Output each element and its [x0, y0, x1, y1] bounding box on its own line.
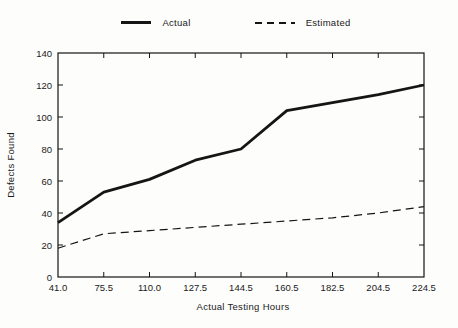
x-tick-label: 127.5 [183, 282, 207, 293]
x-tick-label: 75.5 [95, 282, 114, 293]
plot-frame [58, 53, 424, 277]
x-tick-label: 110.0 [138, 282, 161, 293]
y-tick-label: 120 [36, 80, 52, 91]
x-tick-label: 204.5 [366, 282, 390, 293]
y-tick-label: 140 [36, 48, 52, 59]
y-axis-title: Defects Found [5, 132, 16, 198]
x-tick-label: 41.0 [49, 282, 68, 293]
x-tick-label: 182.5 [321, 282, 345, 293]
estimated-line [58, 207, 424, 249]
x-tick-label: 144.5 [229, 282, 253, 293]
y-tick-label: 20 [41, 240, 52, 251]
y-tick-label: 100 [36, 112, 52, 123]
y-tick-label: 40 [41, 208, 52, 219]
actual-line [58, 85, 424, 223]
y-tick-label: 60 [41, 176, 52, 187]
x-tick-label: 224.5 [412, 282, 436, 293]
x-axis-title: Actual Testing Hours [197, 301, 290, 312]
y-tick-label: 80 [41, 144, 52, 155]
defect-chart-page: Actual Estimated 02040608010012014041.07… [0, 0, 458, 328]
y-tick-label: 0 [47, 272, 52, 283]
x-tick-label: 160.5 [275, 282, 299, 293]
defects-vs-hours-line-chart: 02040608010012014041.075.5110.0127.5144.… [0, 0, 458, 328]
